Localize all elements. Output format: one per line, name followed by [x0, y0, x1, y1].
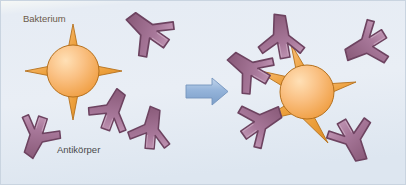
diagram-canvas: Bakterium Antikörper — [0, 0, 406, 185]
label-antikoerper: Antikörper — [57, 144, 100, 155]
antibody-bacterium-diagram: Bakterium Antikörper — [0, 0, 406, 185]
bacterium-right-body — [280, 65, 334, 119]
label-bakterium: Bakterium — [23, 13, 66, 24]
bacterium-left-body — [47, 45, 99, 97]
